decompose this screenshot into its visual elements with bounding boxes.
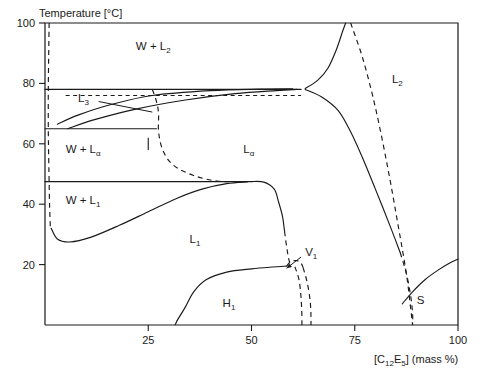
region-label-w-plus-l1: W + L1: [66, 194, 101, 209]
x-axis-ticks: [148, 325, 458, 331]
w-l1-phase-boundary: [51, 182, 247, 242]
l3-lens-upper: [57, 89, 292, 124]
s-solidus-dashed: [351, 23, 413, 325]
y-axis-title: Temperature [°C]: [39, 7, 122, 19]
plot-frame: [45, 23, 458, 325]
region-label-v1: V1: [305, 246, 318, 261]
y-tick-label-40: 40: [23, 198, 35, 210]
y-axis-tick-labels: 100 80 60 40 20: [17, 17, 35, 271]
y-tick-label-80: 80: [23, 77, 35, 89]
x-tick-label-100: 100: [449, 334, 467, 346]
x-axis-title-close: ] (mass %): [406, 353, 459, 365]
y-axis-ticks: [39, 23, 45, 265]
y-tick-label-20: 20: [23, 259, 35, 271]
y-tick-label-100: 100: [17, 17, 35, 29]
y-tick-label-60: 60: [23, 138, 35, 150]
x-axis-tick-labels: 25 50 75 100: [142, 334, 467, 346]
region-label-l2: L2: [392, 73, 403, 88]
v1-left-leg: [295, 267, 302, 325]
phase-region-labels: W + L2L3W + LαW + L1LαL2L1H1V1S: [66, 40, 425, 312]
water-solubility-left-dashed: [48, 23, 50, 228]
x-axis-title-mid: E: [394, 353, 401, 365]
phase-boundary-curves: [48, 23, 458, 325]
phase-diagram-figure: Temperature [°C] [C12E5] (mass %) 100 80…: [0, 0, 480, 375]
h1-lower-left-dashed: [175, 320, 177, 325]
x-tick-label-25: 25: [142, 334, 154, 346]
region-label-h1: H1: [223, 297, 236, 312]
x-axis-title-open: [C: [374, 353, 385, 365]
region-label-w-plus-lalpha: W + Lα: [66, 143, 101, 158]
x-tick-label-50: 50: [245, 334, 257, 346]
lalpha-lower-right-shoulder: [252, 181, 285, 231]
v1-right-leg: [303, 268, 311, 325]
h1-upper-boundary: [177, 266, 286, 320]
lalpha-lower-right-dashed: [285, 231, 291, 266]
region-label-l1: L1: [190, 233, 201, 248]
region-label-lalpha: Lα: [243, 143, 254, 158]
region-label-s: S: [417, 294, 425, 306]
x-axis-title: [C12E5] (mass %): [374, 353, 458, 368]
lalpha-to-l2-upper-critical: [305, 23, 345, 89]
lalpha-to-l2-lower: [305, 89, 400, 252]
phase-diagram-plot: Temperature [°C] [C12E5] (mass %) 100 80…: [0, 0, 480, 375]
x-tick-label-75: 75: [349, 334, 361, 346]
region-label-l3: L3: [78, 92, 89, 107]
region-label-w-plus-l2: W + L2: [136, 40, 171, 55]
svg-text:[C12E5] (mass %): [C12E5] (mass %): [374, 353, 458, 368]
